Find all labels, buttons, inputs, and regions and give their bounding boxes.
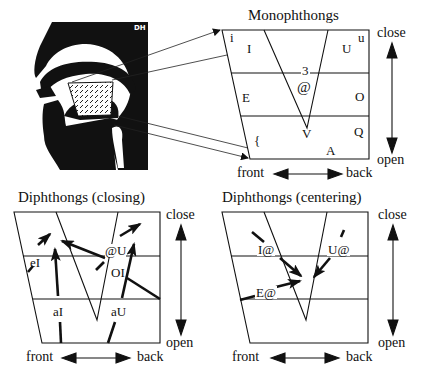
closing-open-label: open: [166, 336, 193, 350]
vowel-symbol: i: [230, 31, 234, 44]
closing-title: Diphthongs (closing): [18, 190, 145, 205]
centering-title: Diphthongs (centering): [222, 190, 362, 205]
centering-back-label: back: [346, 350, 372, 364]
vowel-symbol: @: [297, 80, 311, 95]
centering-quad: [222, 212, 368, 343]
svg-text:DH: DH: [134, 24, 146, 32]
head-silhouette: DH: [34, 22, 148, 170]
vowel-symbol: I: [247, 42, 251, 55]
mono-close-label: close: [377, 26, 406, 40]
mono-close-open-arrow: [387, 43, 397, 153]
diphthong-symbol: @U: [105, 244, 126, 257]
diphthong-symbol: OI: [111, 266, 125, 279]
closing-back-label: back: [137, 350, 163, 364]
closing-close-label: close: [166, 208, 195, 222]
vowel-diagram: DH: [0, 0, 424, 378]
vowel-symbol: V: [302, 127, 311, 140]
mono-open-label: open: [377, 153, 404, 167]
diphthong-symbol: E@: [255, 286, 277, 299]
centering-open-label: open: [378, 336, 405, 350]
diphthong-symbol: U@: [327, 243, 350, 256]
diphthong-symbol: eI: [30, 256, 40, 269]
diphthong-symbol: I@: [257, 243, 275, 256]
diphthong-symbol: aI: [53, 305, 63, 318]
closing-front-label: front: [26, 350, 53, 364]
closing-diphthong-arrows: [28, 224, 160, 343]
vowel-symbol: u: [358, 31, 365, 44]
closing-quad: [14, 212, 160, 343]
vowel-symbol: U: [342, 42, 351, 55]
centering-front-label: front: [232, 350, 259, 364]
monophthongs-title: Monophthongs: [248, 8, 339, 23]
vowel-symbol: O: [355, 90, 364, 103]
vowel-symbol: E: [242, 91, 250, 104]
mono-front-label: front: [237, 166, 264, 180]
vowel-symbol: 3: [301, 64, 310, 77]
closing-close-open-arrow: [176, 225, 186, 335]
mono-back-label: back: [346, 166, 372, 180]
mono-front-back-arrow: [274, 169, 342, 179]
centering-close-label: close: [378, 208, 407, 222]
diphthong-symbol: aU: [111, 305, 126, 318]
vowel-symbol: Q: [354, 125, 363, 138]
closing-front-back-arrow: [62, 353, 130, 363]
centering-front-back-arrow: [271, 353, 339, 363]
vowel-symbol: {: [254, 134, 260, 147]
centering-close-open-arrow: [388, 225, 398, 335]
vowel-symbol: A: [326, 144, 335, 157]
